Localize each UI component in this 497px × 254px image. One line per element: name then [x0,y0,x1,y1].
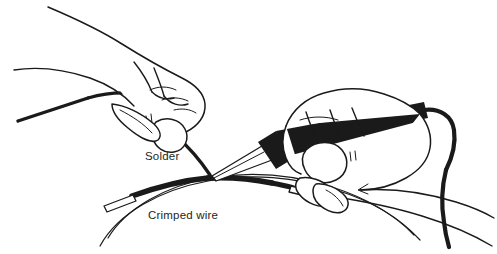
illustration-canvas: Solder Crimped wire [0,0,497,254]
right-thumb-pad [302,143,346,183]
label-solder: Solder [145,150,179,162]
label-crimped-wire: Crimped wire [148,209,218,221]
soldering-illustration: Solder Crimped wire [0,0,497,254]
